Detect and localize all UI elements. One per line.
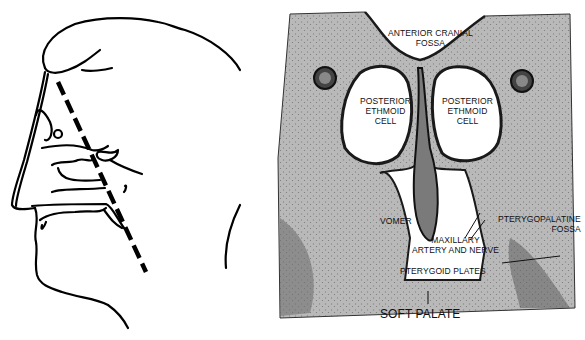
label-soft-palate: SOFT PALATE — [380, 308, 460, 321]
section-plane-line — [58, 82, 146, 272]
label-anterior-cranial-fossa: ANTERIOR CRANIAL FOSSA — [388, 28, 473, 48]
label-pterygopalatine-fossa: PTERYGOPALATINE FOSSA — [498, 214, 581, 234]
label-maxillary-artery-nerve: MAXILLARY ARTERY AND NERVE — [412, 235, 499, 255]
histology-image — [270, 8, 580, 328]
label-posterior-ethmoid-right: POSTERIOR ETHMOID CELL — [442, 96, 493, 126]
head-outline-illustration — [0, 0, 245, 340]
label-pterygoid-plates: PTERYGOID PLATES — [400, 266, 486, 276]
coronal-histology-section: ANTERIOR CRANIAL FOSSA POSTERIOR ETHMOID… — [270, 8, 580, 328]
label-posterior-ethmoid-left: POSTERIOR ETHMOID CELL — [360, 96, 411, 126]
label-vomer: VOMER — [380, 216, 412, 226]
head-sagittal-drawing — [0, 0, 245, 340]
